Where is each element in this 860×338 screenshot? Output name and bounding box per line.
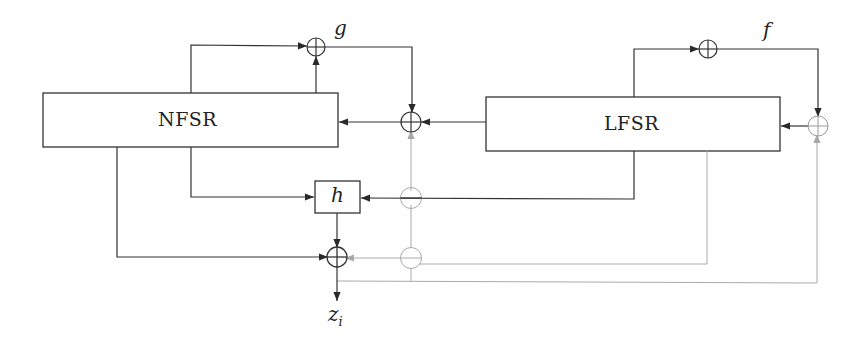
diagram-canvas (0, 0, 860, 338)
output-subscript: i (339, 314, 343, 329)
xor-g (307, 38, 325, 56)
output-symbol: z (328, 302, 339, 326)
lfsr-label: LFSR (604, 112, 659, 134)
output-label: zi (328, 302, 343, 326)
g-label: g (334, 16, 347, 40)
xor-nfsr-feedback (401, 112, 421, 132)
solid-connections (117, 45, 818, 301)
nfsr-label: NFSR (158, 108, 217, 130)
h-label: h (331, 183, 344, 207)
xor-output (327, 247, 347, 267)
xor-f (699, 40, 717, 58)
f-label: f (763, 18, 770, 42)
xor-lfsr-feedback (808, 116, 828, 136)
crossing-output-line (400, 248, 422, 269)
